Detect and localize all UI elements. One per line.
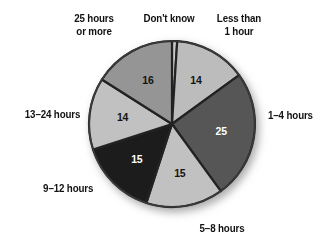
slice-label-13-24-hours: 13–24 hours [8, 108, 81, 121]
pie-chart-graphic: 142515151416 [0, 0, 324, 245]
slice-label-5-8-hours: 5–8 hours [189, 222, 256, 235]
pie-slice-value: 15 [131, 153, 143, 165]
pie-slices-group [89, 41, 255, 207]
pie-slice-value: 15 [174, 167, 186, 179]
pie-chart-figure: 142515151416 25 hours or more Don't know… [0, 0, 324, 245]
slice-label-25-hours-or-more: 25 hours or more [58, 12, 131, 37]
pie-slice-value: 25 [216, 125, 228, 137]
slice-label-less-than-1-hour: Less than 1 hour [204, 12, 275, 37]
slice-label-1-4-hours: 1–4 hours [268, 109, 322, 122]
slice-label-dont-know: Don't know [136, 12, 203, 25]
pie-slice-value: 16 [142, 74, 154, 86]
slice-label-9-12-hours: 9–12 hours [21, 182, 94, 195]
pie-slice-value: 14 [190, 74, 202, 86]
pie-slice-value: 14 [117, 111, 129, 123]
